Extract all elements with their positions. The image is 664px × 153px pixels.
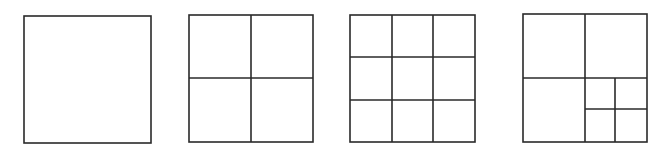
square-4 bbox=[523, 14, 647, 142]
square-1 bbox=[24, 16, 151, 143]
square-outline bbox=[24, 16, 151, 143]
square-outline bbox=[350, 15, 475, 142]
subdivision-diagram bbox=[0, 0, 664, 153]
square-2 bbox=[189, 15, 313, 142]
square-3 bbox=[350, 15, 475, 142]
